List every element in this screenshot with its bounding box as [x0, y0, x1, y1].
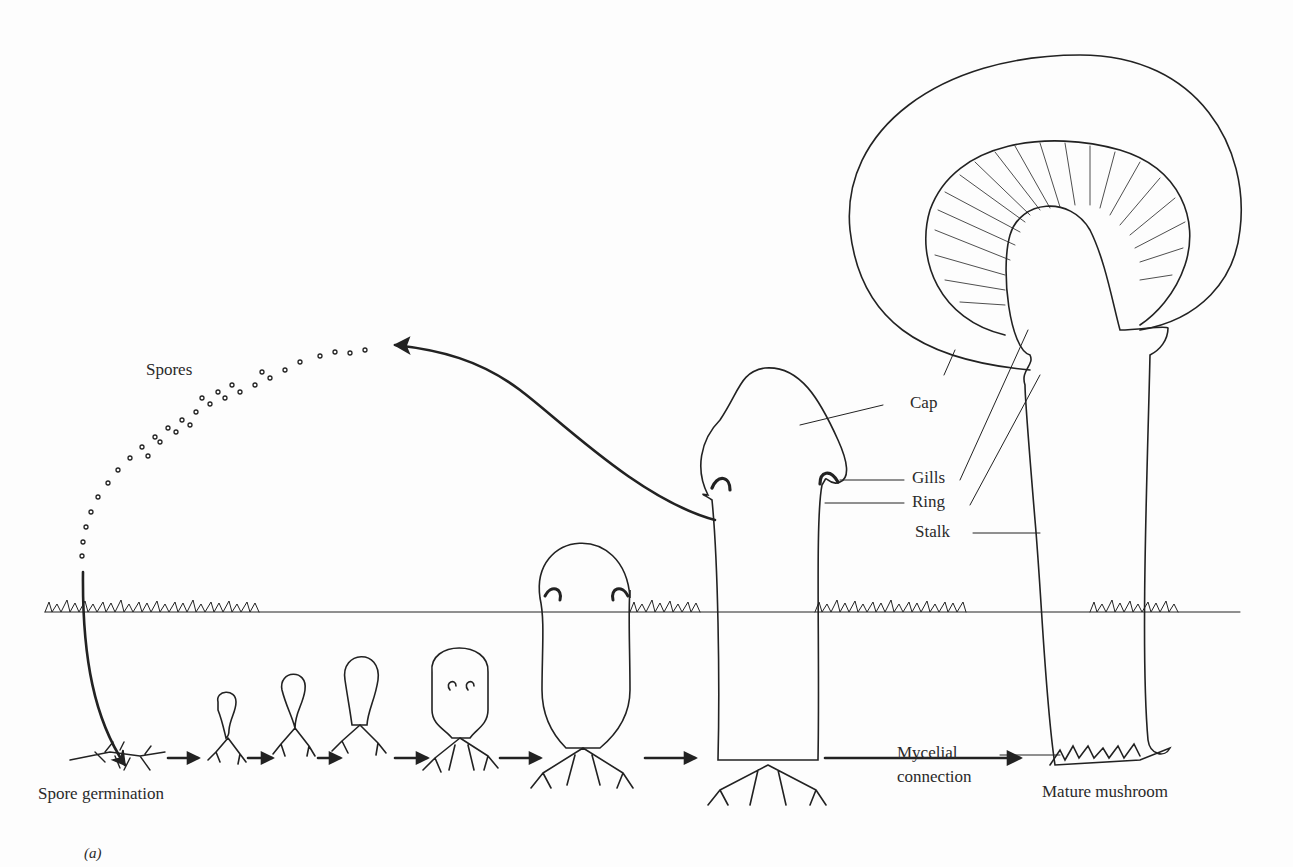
label-connection: connection	[897, 767, 972, 787]
spore-germination-mycelium	[70, 742, 165, 770]
diagram-drawing	[0, 0, 1293, 867]
ground-grass	[45, 600, 1240, 612]
gills-region	[926, 141, 1190, 335]
button-stage-3	[332, 657, 386, 755]
button-stage-2	[273, 674, 315, 756]
mature-mushroom	[849, 55, 1241, 765]
label-mature-mushroom: Mature mushroom	[1042, 782, 1168, 802]
label-spores: Spores	[146, 360, 192, 380]
panel-label: (a)	[84, 845, 102, 862]
mature-stalk	[1006, 206, 1170, 765]
label-ring: Ring	[912, 492, 945, 512]
label-mycelial: Mycelial	[897, 743, 957, 763]
spores-dots	[80, 348, 367, 558]
button-stage-4	[423, 648, 498, 772]
label-spore-germination: Spore germination	[38, 784, 164, 804]
label-stalk: Stalk	[915, 522, 950, 542]
elongating-fruiting-body	[701, 368, 847, 805]
button-stage-1	[208, 692, 246, 764]
spore-drop-arrow	[83, 572, 125, 765]
mature-cap-outline	[849, 55, 1241, 370]
label-gills: Gills	[912, 468, 945, 488]
mushroom-life-cycle-diagram: Spores Cap Gills Ring Stalk Spore germin…	[0, 0, 1293, 867]
young-fruiting-body	[531, 543, 633, 788]
spore-release-arrow	[395, 345, 715, 520]
label-cap: Cap	[910, 393, 937, 413]
